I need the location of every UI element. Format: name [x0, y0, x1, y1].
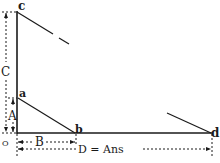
dimension-label-a: A: [7, 109, 17, 123]
dimension-c-arrow-top-icon: [4, 13, 8, 18]
point-label-d: d: [211, 126, 220, 140]
dimension-label-d: D = Ans: [78, 143, 124, 156]
line-from-c: [17, 12, 53, 34]
dimension-a-arrow-bottom-icon: [11, 127, 15, 132]
dimension-d-arrow-right-icon: [206, 147, 211, 151]
point-label-a: a: [19, 87, 26, 100]
point-label-c: c: [18, 0, 25, 13]
dimension-a-arrow-top-icon: [11, 99, 15, 104]
origin-label: O: [2, 139, 9, 148]
line-to-d: [167, 113, 211, 133]
dimension-b-arrow-left-icon: [18, 140, 23, 144]
line-from-c-dash: [59, 38, 69, 44]
point-label-b: b: [75, 123, 83, 136]
dimension-d-arrow-left-icon: [18, 147, 23, 151]
dimension-label-b: B: [35, 135, 44, 149]
similar-triangles-diagram: c a b d O C A B D = Ans: [0, 0, 220, 163]
dimension-label-c: C: [1, 65, 10, 79]
line-a-to-b: [18, 98, 75, 133]
dimension-b-arrow-right-icon: [70, 140, 75, 144]
dimension-c-arrow-bottom-icon: [4, 127, 8, 132]
